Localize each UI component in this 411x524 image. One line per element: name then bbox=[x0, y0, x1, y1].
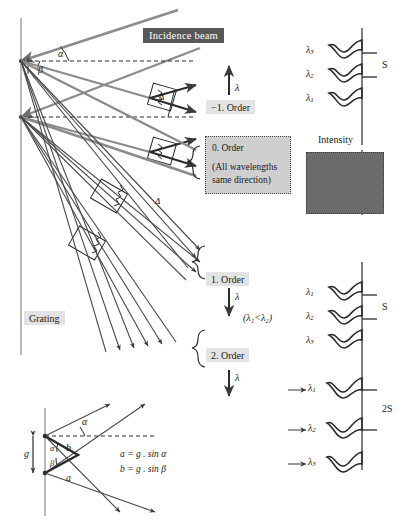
first-order-lambda-label: λ bbox=[235, 291, 239, 302]
inset-angle-alpha-outer: α bbox=[82, 416, 87, 427]
peak-label-second-lambda2: λ2 bbox=[308, 422, 316, 434]
intensity-label: Intensity bbox=[318, 134, 353, 145]
spectrum-minus-first-order bbox=[329, 40, 362, 106]
wavelength-order-condition: (λ₁<λ₂) bbox=[243, 312, 272, 323]
spectrum-first-ticks bbox=[362, 295, 377, 319]
spacing-label-first-order: S bbox=[382, 301, 388, 312]
inset-angle-beta-inner: β bbox=[50, 458, 54, 468]
inset-segment-b-label: b bbox=[66, 442, 71, 453]
second-order-peak-arrows bbox=[288, 390, 306, 464]
zero-order-note-line2: same direction) bbox=[212, 174, 284, 187]
diagram-vector-layer bbox=[0, 0, 411, 524]
first-order-label: 1. Order bbox=[206, 272, 249, 286]
peak-label-second-lambda3: λ3 bbox=[308, 456, 316, 468]
path-difference-upper bbox=[147, 83, 196, 117]
peak-label-minus1-lambda2: λ2 bbox=[306, 68, 314, 80]
second-order-label: 2. Order bbox=[206, 348, 249, 362]
second-order-brace bbox=[192, 330, 205, 367]
spectrum-second-ticks bbox=[362, 390, 377, 430]
peak-label-first-lambda3: λ3 bbox=[306, 334, 314, 346]
peak-label-first-lambda2: λ2 bbox=[306, 310, 314, 322]
incidence-beam-badge: Incidence beam bbox=[143, 28, 224, 43]
minus-first-order-lambda-label: λ bbox=[235, 82, 239, 93]
spectrum-first-order bbox=[329, 282, 362, 348]
grating-label: Grating bbox=[24, 311, 65, 325]
second-order-rays bbox=[21, 61, 176, 352]
zero-order-intensity-box bbox=[306, 152, 384, 214]
inset-angle-alpha-inner: α bbox=[50, 443, 54, 453]
path-difference-delta-upper: Δ bbox=[159, 92, 164, 102]
zero-order-note-line1: (All wavelengths bbox=[212, 161, 284, 174]
inset-segment-a-label: a bbox=[66, 472, 71, 483]
peak-label-minus1-lambda3: λ3 bbox=[306, 44, 314, 56]
figure-canvas: Incidence beam α β Δ Δ λ −1. Order 0. Or… bbox=[0, 0, 411, 524]
spectrum-minus-first-ticks bbox=[362, 53, 377, 77]
angle-beta-label: β bbox=[38, 64, 43, 75]
inset-grating-spacing-label: g bbox=[24, 448, 29, 459]
zero-order-panel: 0. Order (All wavelengths same direction… bbox=[205, 136, 291, 194]
zero-order-label: 0. Order bbox=[212, 142, 284, 155]
spacing-label-minus-first-order: S bbox=[382, 59, 388, 70]
angle-alpha-label: α bbox=[58, 48, 63, 59]
inset-formula-a: a = g . sin α bbox=[120, 449, 166, 459]
first-order-brace bbox=[192, 246, 205, 279]
inset-formula-b: b = g . sin β bbox=[120, 464, 166, 474]
peak-label-second-lambda1: λ1 bbox=[308, 382, 316, 394]
peak-label-first-lambda1: λ1 bbox=[306, 286, 314, 298]
second-order-lambda-label: λ bbox=[235, 372, 239, 383]
spacing-label-second-order: 2S bbox=[382, 403, 393, 414]
path-difference-delta-lower: Δ bbox=[155, 196, 160, 206]
peak-label-minus1-lambda1: λ1 bbox=[306, 92, 314, 104]
spectrum-second-order bbox=[327, 378, 362, 472]
minus-first-order-label: −1. Order bbox=[206, 100, 255, 114]
